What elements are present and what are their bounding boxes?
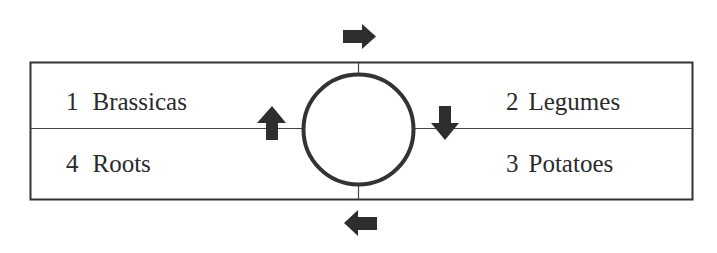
quadrant-name: Brassicas (93, 88, 187, 115)
rotation-diagram (0, 0, 717, 253)
quadrant-name: Roots (93, 150, 151, 177)
arrow-left-icon (344, 210, 377, 236)
quadrant-roots: 4Roots (66, 150, 151, 178)
quadrant-number: 3 (506, 150, 519, 178)
quadrant-number: 1 (66, 88, 79, 116)
quadrant-legumes: 2Legumes (506, 88, 620, 116)
quadrant-name: Potatoes (529, 150, 614, 177)
quadrant-number: 4 (66, 150, 79, 178)
quadrant-potatoes: 3Potatoes (506, 150, 613, 178)
quadrant-number: 2 (506, 88, 519, 116)
quadrant-name: Legumes (529, 88, 621, 115)
arrow-up-icon (257, 106, 286, 140)
arrow-down-icon (431, 106, 459, 140)
arrow-right-icon (343, 24, 376, 49)
center-circle (304, 75, 414, 185)
quadrant-brassicas: 1Brassicas (66, 88, 187, 116)
